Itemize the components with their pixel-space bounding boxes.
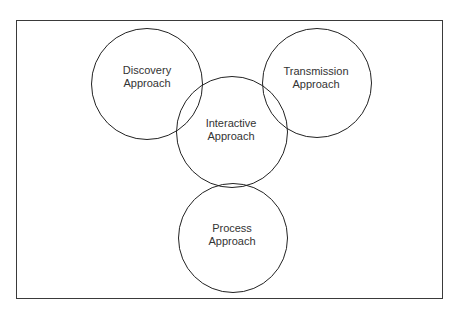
transmission-label-line2: Approach xyxy=(284,78,349,91)
interactive-label-line1: Interactive xyxy=(206,117,257,130)
transmission-label-line1: Transmission xyxy=(284,65,349,78)
process-label-line2: Approach xyxy=(208,235,255,248)
interactive-label-line2: Approach xyxy=(206,130,257,143)
process-approach-label: Process Approach xyxy=(208,222,255,248)
discovery-label-line1: Discovery xyxy=(123,64,171,77)
discovery-approach-label: Discovery Approach xyxy=(123,64,171,90)
discovery-label-line2: Approach xyxy=(123,77,171,90)
interactive-approach-label: Interactive Approach xyxy=(206,117,257,143)
transmission-approach-label: Transmission Approach xyxy=(284,65,349,91)
approaches-venn-diagram: Discovery Approach Transmission Approach… xyxy=(0,0,458,314)
process-label-line1: Process xyxy=(208,222,255,235)
